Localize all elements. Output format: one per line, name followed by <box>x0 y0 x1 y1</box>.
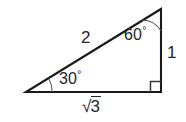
radicand-value: 3 <box>91 96 102 115</box>
angle-label-60-degrees: 60° <box>124 27 146 43</box>
radical-expression: √3 <box>82 96 101 115</box>
base-leg-length-label: √3 <box>82 96 101 115</box>
angle-30-value: 30 <box>59 70 77 87</box>
degree-symbol-icon: ° <box>77 69 81 80</box>
hypotenuse-length-label: 2 <box>81 29 91 46</box>
angle-arc-30-degrees <box>49 79 52 92</box>
angle-60-value: 60 <box>124 26 142 43</box>
triangle-outline <box>26 9 161 92</box>
angle-label-30-degrees: 30° <box>59 71 81 87</box>
right-angle-square-icon <box>151 82 162 93</box>
vertical-leg-length-label: 1 <box>167 44 177 61</box>
degree-symbol-icon: ° <box>142 25 146 36</box>
geometry-figure: 2 1 60° 30° √3 <box>0 0 186 122</box>
